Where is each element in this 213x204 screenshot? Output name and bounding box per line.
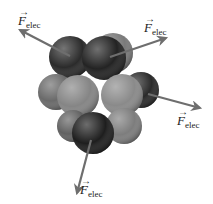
force-label-bottom: F→elec (80, 183, 102, 199)
force-subscript: elec (185, 120, 199, 130)
sphere-shading (57, 75, 99, 117)
vector-arrow-icon: → (145, 14, 155, 24)
force-label-top-right: F→elec (144, 21, 166, 37)
force-symbol: F→ (18, 13, 26, 28)
vector-arrow-icon: → (178, 107, 188, 117)
force-subscript: elec (152, 27, 166, 37)
sphere-shading (72, 112, 114, 154)
vector-arrow-icon: → (81, 176, 91, 186)
sphere-shading (82, 36, 126, 80)
force-symbol: F→ (80, 182, 88, 197)
force-arrow-right (148, 94, 200, 108)
force-label-top-left: F→elec (18, 14, 40, 30)
force-subscript: elec (88, 189, 102, 199)
force-subscript: elec (26, 20, 40, 30)
nucleon-cluster (38, 33, 159, 154)
force-symbol: F→ (177, 113, 185, 128)
force-symbol: F→ (144, 20, 152, 35)
vector-arrow-icon: → (19, 7, 29, 17)
nucleus-diagram (0, 0, 213, 204)
force-label-right: F→elec (177, 114, 199, 130)
